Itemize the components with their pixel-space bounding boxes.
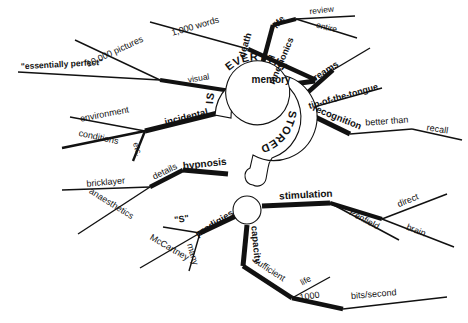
branch-line-stimulation [262, 203, 330, 206]
label-life-2[interactable]: life [298, 273, 313, 287]
label-anaesthetics[interactable]: anaesthetics [88, 186, 137, 222]
label-recall[interactable]: recall [426, 122, 449, 135]
center-word-is: IS [203, 91, 217, 104]
label-bits-per-second[interactable]: bits/second [351, 287, 397, 301]
question-mark-dot-icon [233, 196, 261, 224]
label-etc[interactable]: etc. [131, 141, 145, 157]
label-entire[interactable]: entire [315, 20, 338, 35]
branch-line-bricklayer [62, 187, 150, 190]
label-thousand[interactable]: 1000 [299, 290, 320, 303]
label-essentially-perfect[interactable]: "essentially perfect" [21, 57, 104, 71]
label-prodigies[interactable]: prodigies [193, 207, 235, 239]
label-hypnosis[interactable]: hypnosis [182, 156, 227, 172]
label-brain[interactable]: brain [405, 222, 427, 239]
label-incidental[interactable]: incidental [163, 106, 209, 127]
label-review[interactable]: review [309, 4, 335, 17]
mind-map-svg: IS EVERYTHING STORED memory mnemonics 1,… [0, 0, 468, 323]
label-stimulation[interactable]: stimulation [279, 188, 333, 202]
label-s-quoted[interactable]: "S" [174, 213, 190, 225]
label-environment[interactable]: environment [79, 104, 130, 123]
label-visual[interactable]: visual [187, 71, 210, 84]
branch-labels: memory mnemonics 1,000 words visual 10,0… [21, 4, 449, 303]
label-mccartney[interactable]: McCartney [148, 232, 191, 263]
label-penfield[interactable]: Penfield [348, 207, 381, 231]
label-better-than[interactable]: better than [365, 115, 409, 128]
mind-map-canvas: IS EVERYTHING STORED memory mnemonics 1,… [0, 0, 468, 323]
branch-line-capacity [243, 225, 247, 266]
branch-line-essentially-perfect [18, 72, 160, 80]
label-sufficient[interactable]: sufficient [252, 256, 288, 284]
branch-line-review [296, 16, 355, 19]
